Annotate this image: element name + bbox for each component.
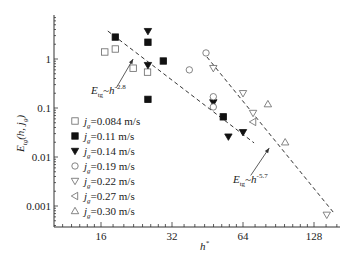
data-point-triangle-down-filled [225, 134, 232, 140]
annotation-label: Etg~h-2.8 [90, 83, 126, 99]
legend-item: jg=0.14 m/s [71, 145, 134, 160]
legend: jg=0.084 m/sjg=0.11 m/sjg=0.14 m/sjg=0.1… [71, 115, 140, 220]
y-tick-label: 1 [46, 53, 52, 65]
legend-label: jg=0.22 m/s [82, 175, 135, 190]
legend-label: jg=0.11 m/s [82, 130, 134, 145]
legend-marker-circle-open [72, 163, 78, 169]
annotation-arrow-head [129, 59, 133, 64]
data-point-square-filled [112, 34, 118, 40]
legend-marker-triangle-up-open [71, 207, 78, 213]
data-point-triangle-up-open [264, 100, 271, 106]
x-tick-label: 128 [306, 230, 323, 242]
legend-label: jg=0.14 m/s [82, 145, 135, 160]
axes: 10.10.010.001163264128 [26, 15, 340, 242]
x-tick-label: 16 [96, 230, 108, 242]
data-point-square-filled [220, 114, 226, 120]
data-point-triangle-down-open [323, 212, 330, 218]
legend-marker-triangle-down-filled [71, 148, 78, 154]
data-point-square-filled [145, 39, 151, 45]
y-tick-label: 0.1 [37, 102, 51, 114]
data-point-square-open [102, 49, 108, 55]
data-point-circle-open [203, 50, 209, 56]
data-point-triangle-down-filled [144, 28, 151, 34]
data-point-triangle-left-open [249, 118, 255, 125]
y-axis-title: Etg(h, jg) [14, 115, 29, 153]
data-point-triangle-down-filled [144, 62, 151, 68]
legend-label: jg=0.30 m/s [82, 205, 135, 220]
y-tick-label: 0.001 [26, 200, 51, 212]
scatter-chart: 10.10.010.001163264128 Etg~h-2.8Etg~h-5.… [0, 0, 357, 266]
x-tick-label: 32 [167, 230, 178, 242]
x-axis-title: h* [200, 239, 210, 252]
legend-marker-square-open [72, 118, 78, 124]
data-point-square-open [112, 46, 118, 52]
data-point-square-open [130, 65, 136, 71]
legend-label: jg=0.084 m/s [82, 115, 140, 130]
data-point-square-open [144, 69, 150, 75]
legend-marker-square-filled [72, 133, 78, 139]
x-tick-label: 64 [238, 230, 250, 242]
data-point-circle-open [186, 67, 192, 73]
legend-item: jg=0.084 m/s [72, 115, 140, 130]
data-point-triangle-down-open [239, 91, 246, 97]
legend-item: jg=0.27 m/s [71, 190, 134, 205]
data-point-triangle-up-open [281, 139, 288, 145]
fit-lines [108, 31, 335, 214]
annotation-arrow-head [265, 148, 269, 153]
legend-marker-triangle-down-open [71, 178, 78, 184]
data-point-square-filled [145, 96, 151, 102]
data-point-triangle-down-filled [239, 130, 246, 136]
legend-item: jg=0.22 m/s [71, 175, 134, 190]
data-point-circle-open [210, 94, 216, 100]
data-point-triangle-down-open [249, 110, 256, 116]
annotation-label: Etg~h-5.7 [232, 172, 268, 188]
legend-item: jg=0.30 m/s [71, 205, 134, 220]
legend-item: jg=0.19 m/s [72, 160, 135, 175]
y-tick-label: 0.01 [32, 151, 51, 163]
legend-marker-triangle-left-open [71, 192, 77, 199]
data-point-square-filled [160, 58, 166, 64]
legend-label: jg=0.27 m/s [82, 190, 135, 205]
legend-label: jg=0.19 m/s [82, 160, 135, 175]
data-point-circle-open [210, 104, 216, 110]
legend-item: jg=0.11 m/s [72, 130, 134, 145]
